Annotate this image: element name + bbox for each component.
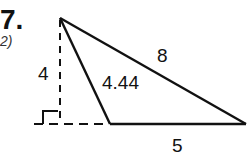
side-long [60,18,246,124]
label-side-long: 8 [157,45,168,66]
label-height: 4 [38,63,49,84]
label-base: 5 [172,135,183,156]
triangle-diagram: 4 4.44 8 5 [0,0,252,168]
side-inner [60,18,110,124]
right-angle-marker [43,111,58,124]
label-side-inner: 4.44 [102,72,139,93]
